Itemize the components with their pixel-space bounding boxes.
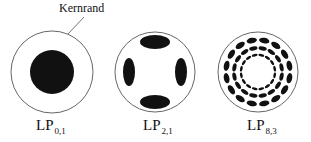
lobe [269,78,274,84]
lobe [123,58,135,86]
lobe [241,78,246,84]
lobe [259,37,270,45]
mode-index: 2,1 [162,126,173,136]
lobe [140,35,170,49]
mode-lp21 [115,32,195,112]
lobe [273,72,277,78]
lobe [258,46,267,52]
lobe [234,54,242,63]
kernrand-annotation: Kernrand [59,1,104,16]
lobe [223,60,231,71]
lobe [226,84,236,96]
lobe [269,59,274,65]
lobe [249,46,258,52]
mode-label-lp83: LP8,3 [247,117,277,136]
lobe [223,73,231,84]
lobe [273,65,277,71]
lobe [226,48,236,60]
lobe [245,55,251,60]
mode-name: LP [143,117,161,133]
lobe [240,88,249,96]
lobe [279,72,285,81]
core-boundary [218,32,298,112]
lobe [234,81,242,90]
lobe [264,83,270,88]
mode-name: LP [36,117,54,133]
mode-name: LP [247,117,265,133]
lobe [279,48,289,60]
lobe [241,59,246,65]
mode-label-lp21: LP2,1 [143,117,173,136]
lobe [264,55,270,60]
lobe [234,40,246,50]
lobe [251,53,257,57]
lobe [274,81,282,90]
lobe [270,93,282,103]
lobe [239,65,243,71]
lobe [274,54,282,63]
lobe [251,87,257,91]
lobe [267,88,276,96]
lobe [258,87,264,91]
mode-lp83 [218,32,298,112]
lobe [249,93,258,99]
lobe [239,72,243,78]
lobe [270,40,282,50]
mode-index: 0,1 [55,126,66,136]
lobe [259,100,270,108]
lobe [232,63,238,72]
intensity-spot [30,50,74,94]
lobe [246,37,257,45]
lobe [140,95,170,109]
lobe [175,58,187,86]
mode-index: 8,3 [266,126,277,136]
lobe [258,53,264,57]
lobe [286,73,294,84]
lobe [246,100,257,108]
lobe [279,84,289,96]
annotation-leader-line [68,17,84,34]
lobe [232,72,238,81]
mode-lp01 [11,17,93,113]
lobe [286,60,294,71]
lobe [279,63,285,72]
lobe [234,93,246,103]
lobe [258,93,267,99]
lobe [267,48,276,56]
mode-label-lp01: LP0,1 [36,117,66,136]
lobe [240,48,249,56]
lobe [245,83,251,88]
